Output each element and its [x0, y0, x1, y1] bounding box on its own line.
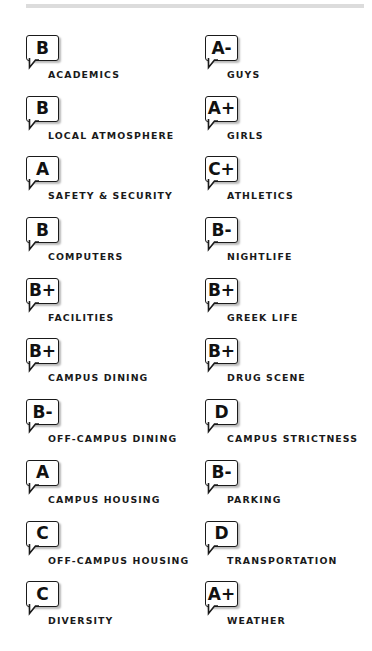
grade-item-athletics: C+ ATHLETICS — [205, 156, 372, 217]
grade-value: A — [36, 161, 49, 178]
grade-item-academics: B ACADEMICS — [26, 35, 205, 96]
category-label: LOCAL ATMOSPHERE — [48, 130, 174, 141]
grade-value: A — [36, 464, 49, 481]
grade-item-off-campus-housing: C OFF-CAMPUS HOUSING — [26, 521, 205, 582]
category-label: COMPUTERS — [48, 251, 123, 262]
grade-value: B+ — [29, 282, 56, 299]
grade-value: D — [214, 525, 228, 542]
grade-value: B — [36, 100, 49, 117]
category-label: GREEK LIFE — [227, 312, 299, 323]
grade-value: B+ — [208, 343, 235, 360]
grade-value: B+ — [29, 343, 56, 360]
top-divider — [26, 4, 364, 8]
grade-value: B — [36, 40, 49, 57]
grade-item-girls: A+ GIRLS — [205, 96, 372, 157]
category-label: SAFETY & SECURITY — [48, 190, 173, 201]
category-label: FACILITIES — [48, 312, 114, 323]
grade-item-campus-strictness: D CAMPUS STRICTNESS — [205, 399, 372, 460]
grade-item-local-atmosphere: B LOCAL ATMOSPHERE — [26, 96, 205, 157]
grade-item-transportation: D TRANSPORTATION — [205, 521, 372, 582]
category-label: CAMPUS DINING — [48, 372, 148, 383]
grade-value: A- — [211, 40, 231, 57]
category-label: DRUG SCENE — [227, 372, 306, 383]
grade-item-computers: B COMPUTERS — [26, 217, 205, 278]
grade-value: C+ — [208, 161, 235, 178]
grade-item-safety-and-security: A SAFETY & SECURITY — [26, 156, 205, 217]
grade-value: C — [36, 586, 48, 603]
category-label: NIGHTLIFE — [227, 251, 292, 262]
grade-item-greek-life: B+ GREEK LIFE — [205, 278, 372, 339]
grade-item-nightlife: B- NIGHTLIFE — [205, 217, 372, 278]
grade-item-campus-dining: B+ CAMPUS DINING — [26, 338, 205, 399]
category-label: GIRLS — [227, 130, 264, 141]
grade-item-drug-scene: B+ DRUG SCENE — [205, 338, 372, 399]
category-label: WEATHER — [227, 615, 286, 626]
category-label: GUYS — [227, 69, 260, 80]
category-label: DIVERSITY — [48, 615, 113, 626]
grade-value: B — [36, 222, 49, 239]
grade-item-diversity: C DIVERSITY — [26, 581, 205, 642]
grade-value: D — [214, 404, 228, 421]
category-label: TRANSPORTATION — [227, 555, 337, 566]
category-label: PARKING — [227, 494, 281, 505]
grade-item-campus-housing: A CAMPUS HOUSING — [26, 460, 205, 521]
grade-item-weather: A+ WEATHER — [205, 581, 372, 642]
category-label: OFF-CAMPUS DINING — [48, 433, 177, 444]
report-card-grid: B ACADEMICS A- GUYS B — [26, 35, 372, 642]
grade-item-parking: B- PARKING — [205, 460, 372, 521]
grade-value: B+ — [208, 282, 235, 299]
grade-item-facilities: B+ FACILITIES — [26, 278, 205, 339]
grade-value: C — [36, 525, 48, 542]
grade-value: A+ — [208, 100, 235, 117]
category-label: ACADEMICS — [48, 69, 120, 80]
grade-item-guys: A- GUYS — [205, 35, 372, 96]
grade-value: B- — [32, 404, 52, 421]
category-label: OFF-CAMPUS HOUSING — [48, 555, 189, 566]
grade-item-off-campus-dining: B- OFF-CAMPUS DINING — [26, 399, 205, 460]
grade-value: B- — [211, 222, 231, 239]
category-label: CAMPUS HOUSING — [48, 494, 161, 505]
grade-value: B- — [211, 464, 231, 481]
category-label: ATHLETICS — [227, 190, 294, 201]
grade-value: A+ — [208, 586, 235, 603]
category-label: CAMPUS STRICTNESS — [227, 433, 358, 444]
